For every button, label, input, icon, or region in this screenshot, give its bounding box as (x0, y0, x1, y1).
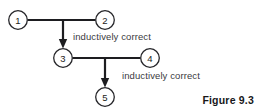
node-4-label: 4 (147, 53, 152, 64)
edge-label-inductively-correct-lower: inductively correct (122, 70, 200, 81)
node-1-label: 1 (15, 15, 20, 26)
node-2-label: 2 (102, 15, 107, 26)
node-5-label: 5 (102, 92, 107, 103)
node-3-label: 3 (60, 53, 65, 64)
edge-label-inductively-correct-upper: inductively correct (73, 31, 151, 42)
figure-caption: Figure 9.3 (202, 94, 254, 106)
figure-container: 1 2 3 4 5 inductively correct inductivel… (0, 0, 260, 112)
arrowhead-to-5 (101, 78, 109, 88)
arrowhead-to-3 (59, 39, 67, 49)
